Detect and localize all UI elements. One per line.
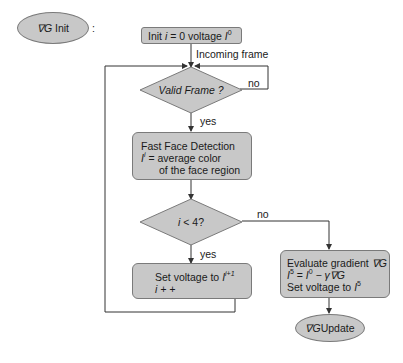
eval-line3: Set voltage to xyxy=(287,281,354,293)
valid-frame-no: no xyxy=(248,77,260,89)
loop-check-label: i < 4? xyxy=(160,216,222,228)
init-box: Init i = 0 voltage I0 xyxy=(141,27,242,44)
eval-mid: = xyxy=(294,269,306,281)
update-symbol: ∇G xyxy=(305,322,320,334)
eval-line1: Evaluate gradient xyxy=(287,257,372,269)
valid-frame-yes: yes xyxy=(200,115,216,127)
init-mid: = 0 voltage xyxy=(167,30,225,42)
eval-symbol: ∇G xyxy=(372,257,387,269)
nabla-g-symbol: ∇G xyxy=(37,22,52,34)
loop-check-yes: yes xyxy=(200,248,216,260)
face-detection-box: Fast Face Detection Ii = average color o… xyxy=(132,132,252,180)
update-ellipse: ∇G Update xyxy=(295,314,365,342)
set-voltage-box: Set voltage to Ii+1 i + + xyxy=(132,263,252,299)
face-line1: Fast Face Detection xyxy=(141,140,251,152)
init-prefix: Init xyxy=(148,30,165,42)
setv-sup: i+1 xyxy=(225,270,235,277)
setv-line1: Set voltage to xyxy=(155,271,222,283)
start-label: Init xyxy=(55,22,69,34)
valid-frame-label: Valid Frame ? xyxy=(150,84,232,96)
incoming-frame-label: Incoming frame xyxy=(196,48,268,60)
eval-line3-sup: 5 xyxy=(357,280,361,287)
setv-line2: i + + xyxy=(155,283,251,295)
start-ellipse: ∇G Init xyxy=(17,12,89,44)
face-line3: of the face region xyxy=(141,164,251,176)
update-label: Update xyxy=(321,322,355,334)
eval-tail: − γ∇G xyxy=(313,269,345,281)
evaluate-gradient-box: Evaluate gradient ∇G I5 = I0 − γ∇G Set v… xyxy=(280,250,390,298)
loop-text: < 4? xyxy=(180,216,204,228)
face-line2: = average color xyxy=(145,152,221,164)
loop-check-no: no xyxy=(257,208,269,220)
start-colon: : xyxy=(92,22,95,34)
init-sup: 0 xyxy=(228,29,232,36)
